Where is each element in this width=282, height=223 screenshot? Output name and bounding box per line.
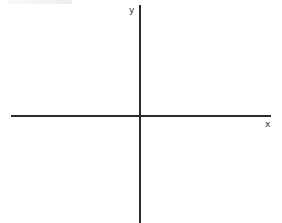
coordinate-plane: x y: [0, 0, 282, 223]
x-axis-label: x: [265, 120, 270, 129]
faded-caption-remnant: [8, 0, 72, 4]
y-axis-label: y: [129, 6, 134, 15]
y-axis-line: [139, 5, 141, 223]
x-axis-line: [11, 115, 271, 117]
